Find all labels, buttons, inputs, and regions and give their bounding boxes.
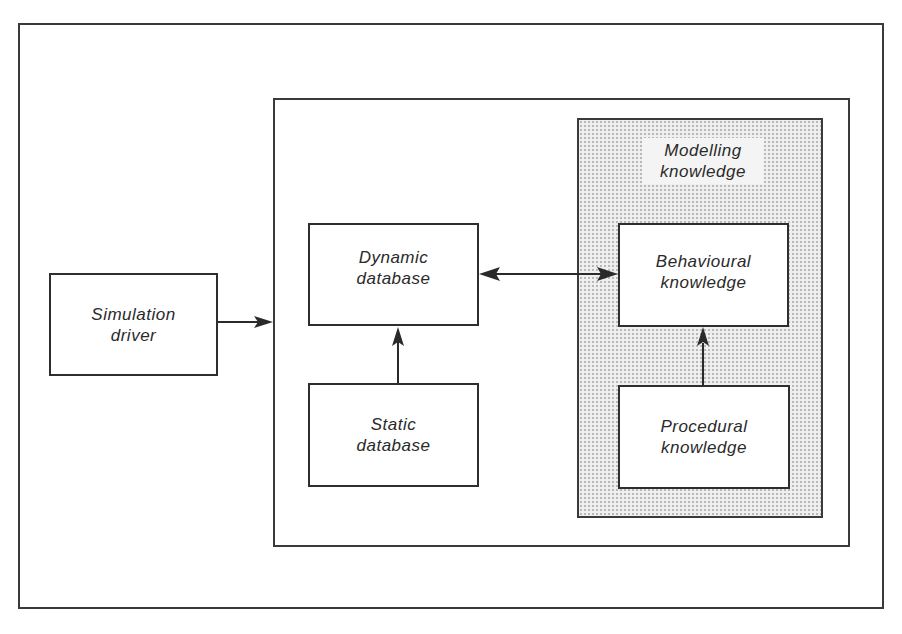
edge-procedural-to-behavioural: [697, 327, 709, 385]
edges-layer: [0, 0, 902, 634]
edge-static-to-dynamic: [392, 327, 404, 383]
edge-dynamic-behavioural: [479, 267, 618, 281]
edge-simulation-driver-to-container: [218, 316, 273, 328]
